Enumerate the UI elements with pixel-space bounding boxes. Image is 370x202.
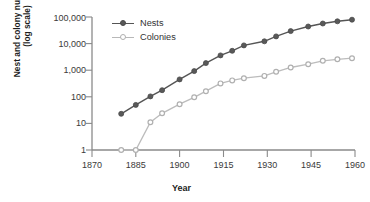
x-tick-label-1885: 1885 (119, 161, 153, 170)
y-tick-label-1: 1 (81, 146, 86, 155)
y-tick-label-10000: 10,000 (58, 40, 86, 49)
legend-label-nests: Nests (140, 18, 164, 28)
y-axis-tick-labels: 100,000 10,000 1,000 100 10 1 (20, 0, 86, 202)
y-tick-label-1000: 1,000 (63, 66, 86, 75)
x-tick-label-1930: 1930 (250, 161, 284, 170)
x-axis-title: Year (0, 183, 363, 193)
y-tick-label-10: 10 (76, 119, 86, 128)
legend-item-colonies: Colonies (112, 30, 176, 44)
legend-line-colonies (112, 37, 134, 38)
legend-item-nests: Nests (112, 16, 176, 30)
chart-legend: Nests Colonies (112, 16, 176, 44)
x-tick-label-1870: 1870 (75, 161, 109, 170)
x-tick-label-1900: 1900 (163, 161, 197, 170)
x-tick-label-1960: 1960 (338, 161, 370, 170)
legend-marker-nests-icon (120, 20, 126, 26)
y-axis-ticks (86, 17, 92, 150)
series-colonies (119, 56, 355, 153)
legend-line-nests (112, 23, 134, 24)
x-tick-label-1915: 1915 (207, 161, 241, 170)
x-axis-ticks (92, 150, 355, 157)
legend-marker-colonies-icon (120, 34, 126, 40)
y-tick-label-100: 100 (71, 93, 86, 102)
y-tick-label-100000: 100,000 (53, 14, 86, 23)
legend-label-colonies: Colonies (140, 32, 176, 42)
x-tick-label-1945: 1945 (294, 161, 328, 170)
